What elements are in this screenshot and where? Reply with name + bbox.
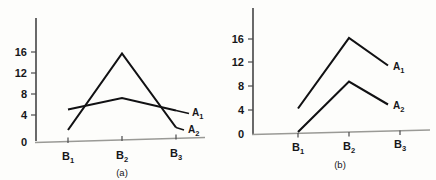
chart-a-ylabel-0: 0 — [21, 136, 27, 148]
chart-a-xlabel-b2: B2 — [116, 149, 128, 164]
chart-a-x-axis — [35, 138, 205, 143]
chart-a-ylabel-8: 8 — [21, 88, 27, 100]
chart-b-svg: 16 12 8 4 0 B1 B2 B3 A1 A2 (b) — [218, 0, 436, 180]
chart-b-xlabel-b3: B3 — [394, 138, 406, 153]
chart-panel-a: 16 12 8 4 0 B1 B2 B3 A1 A2 (a) — [0, 0, 218, 180]
chart-a-series-a2-leader — [176, 128, 184, 131]
chart-b-series-label-a2: A2 — [393, 100, 404, 114]
chart-a-ylabel-4: 4 — [21, 109, 28, 121]
chart-panel-b: 16 12 8 4 0 B1 B2 B3 A1 A2 (b) — [218, 0, 436, 180]
chart-a-series-label-a2: A2 — [188, 124, 199, 138]
chart-b-xlabel-b2: B2 — [343, 140, 355, 155]
chart-b-ylabel-16: 16 — [232, 33, 244, 45]
chart-a-xlabel-b3: B3 — [170, 147, 182, 162]
chart-a-ylabel-12: 12 — [15, 67, 27, 79]
figure-container: 16 12 8 4 0 B1 B2 B3 A1 A2 (a) — [0, 0, 436, 180]
chart-a-xlabel-b1: B1 — [62, 150, 74, 165]
chart-b-x-axis — [252, 130, 430, 135]
chart-a-series-a1-leader — [176, 111, 189, 114]
chart-a-caption: (a) — [116, 167, 128, 178]
chart-b-xlabel-b1: B1 — [292, 141, 304, 156]
chart-b-series-label-a1: A1 — [393, 61, 404, 75]
chart-b-series-a1-line — [298, 38, 388, 109]
chart-a-series-a2-line — [68, 54, 176, 131]
chart-b-caption: (b) — [334, 159, 346, 170]
chart-b-ylabel-8: 8 — [238, 80, 244, 92]
chart-a-svg: 16 12 8 4 0 B1 B2 B3 A1 A2 (a) — [0, 0, 218, 180]
chart-a-series-label-a1: A1 — [192, 107, 203, 121]
chart-b-ylabel-0: 0 — [238, 128, 244, 140]
chart-b-ylabel-4: 4 — [238, 104, 245, 116]
chart-a-ylabel-16: 16 — [15, 46, 27, 58]
chart-b-ylabel-12: 12 — [232, 56, 244, 68]
